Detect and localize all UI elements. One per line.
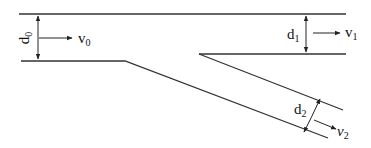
d2-label: d2: [294, 101, 307, 119]
diagram-svg: d0 v0 d1 v1 d2 v2: [0, 0, 371, 148]
svg-text:d0: d0: [16, 32, 34, 45]
d1-label: d1: [287, 26, 300, 44]
v2-label: v2: [337, 123, 349, 141]
channel-diagram: d0 v0 d1 v1 d2 v2: [0, 0, 371, 148]
v1-label: v1: [345, 24, 358, 42]
v0-label: v0: [78, 30, 91, 48]
branch-upper-wall: [199, 54, 343, 110]
d0-label: d0: [16, 32, 34, 45]
d2-dimension-arrow-up: [312, 99, 320, 116]
lower-wall: [21, 61, 328, 138]
v2-arrow: [314, 120, 336, 129]
